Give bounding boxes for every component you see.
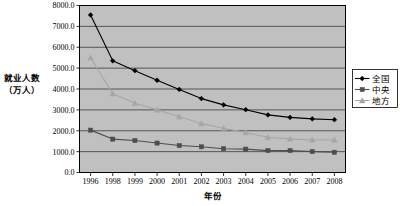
x-tick-label: 1999	[127, 177, 143, 186]
line-chart: 0.01000.02000.03000.04000.05000.06000.07…	[0, 0, 400, 206]
x-tick-label: 1996	[83, 177, 99, 186]
x-axis-tick-labels: 1996199819992000200120022003200420052006…	[83, 177, 343, 186]
chart-legend: 全国中央地方	[353, 70, 398, 108]
x-tick-label: 2001	[171, 177, 187, 186]
x-tick-label: 2002	[193, 177, 209, 186]
data-point-marker	[310, 150, 314, 154]
x-tick-label: 2006	[282, 177, 298, 186]
y-tick-label: 8000.0	[53, 1, 75, 10]
x-tick-label: 1998	[105, 177, 121, 186]
data-point-marker	[155, 141, 159, 145]
x-tick-label: 2005	[260, 177, 276, 186]
data-point-marker	[221, 147, 225, 151]
x-tick-label: 2003	[216, 177, 232, 186]
x-axis-title-text: 年份	[204, 191, 222, 201]
data-point-marker	[266, 148, 270, 152]
data-point-marker	[244, 147, 248, 151]
data-point-marker	[111, 137, 115, 141]
x-tick-label: 2000	[149, 177, 165, 186]
legend-label: 地方	[372, 96, 390, 106]
y-tick-label: 1000.0	[53, 148, 75, 157]
y-axis-title-line1: 就业人数	[4, 73, 40, 83]
data-point-marker	[288, 148, 292, 152]
data-point-marker	[133, 138, 137, 142]
x-tick-label: 2008	[326, 177, 342, 186]
y-axis-title-line2: （万人）	[4, 85, 40, 95]
y-tick-label: 2000.0	[53, 127, 75, 136]
x-tick-label: 2007	[304, 177, 320, 186]
data-point-marker	[332, 150, 336, 154]
y-tick-label: 0.0	[65, 168, 75, 177]
data-point-marker	[177, 143, 181, 147]
x-tick-label: 2004	[238, 177, 254, 186]
data-point-marker	[199, 145, 203, 149]
y-tick-label: 4000.0	[53, 85, 75, 94]
legend-label: 中央	[372, 85, 390, 95]
y-axis-title: 就业人数（万人）	[4, 73, 40, 95]
y-axis-tick-labels: 0.01000.02000.03000.04000.05000.06000.07…	[53, 1, 75, 177]
data-point-marker	[88, 128, 92, 132]
y-tick-label: 6000.0	[53, 43, 75, 52]
y-tick-label: 7000.0	[53, 22, 75, 31]
chart-container: 0.01000.02000.03000.04000.05000.06000.07…	[0, 0, 400, 206]
y-tick-label: 3000.0	[53, 106, 75, 115]
legend-label: 全国	[372, 74, 390, 84]
data-point-marker	[360, 87, 364, 91]
y-tick-label: 5000.0	[53, 64, 75, 73]
x-axis-tick-marks	[91, 173, 335, 177]
x-axis-title: 年份	[204, 191, 222, 201]
